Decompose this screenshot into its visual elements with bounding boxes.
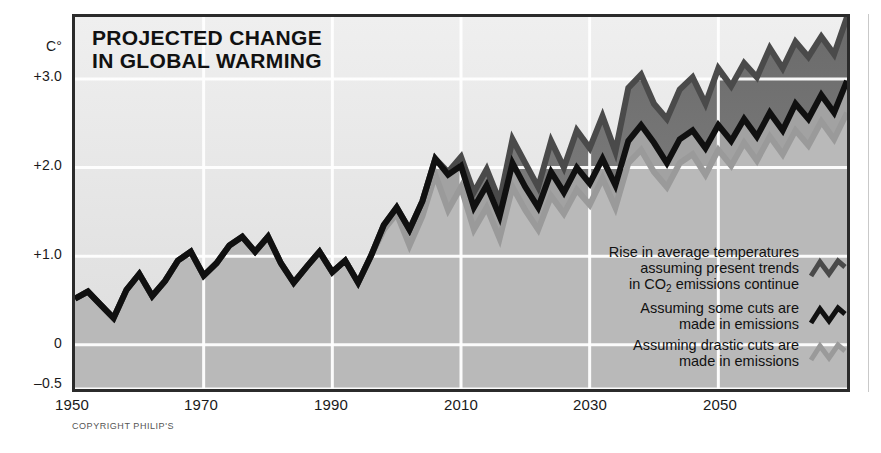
legend-label-drastic-cuts: Assuming drastic cuts are made in emissi… [633,337,808,369]
y-tick-2: +2.0 [10,157,62,173]
zigzag-icon [808,256,848,282]
legend-item-present-trends: Rise in average temperatures assuming pr… [400,244,848,295]
y-tick-neg: –0.5 [10,375,62,391]
x-tick-1990: 1990 [296,396,366,413]
chart-legend: Rise in average temperatures assuming pr… [400,244,848,375]
legend-item-some-cuts: Assuming some cuts are made in emissions [400,300,848,332]
legend-label-present-trends: Rise in average temperatures assuming pr… [609,244,808,295]
chart-figure: C° +3.0 +2.0 +1.0 0 –0.5 1950 1970 1990 … [0,0,881,453]
x-tick-1970: 1970 [166,396,236,413]
y-tick-0: 0 [10,335,62,351]
x-tick-1950: 1950 [37,396,107,413]
zigzag-icon [808,303,848,329]
y-tick-3: +3.0 [10,68,62,84]
y-axis-unit: C° [10,38,62,54]
y-tick-1: +1.0 [10,246,62,262]
x-tick-2050: 2050 [685,396,755,413]
x-tick-2030: 2030 [555,396,625,413]
x-tick-2010: 2010 [426,396,496,413]
legend-label-some-cuts: Assuming some cuts are made in emissions [640,300,808,332]
legend-item-drastic-cuts: Assuming drastic cuts are made in emissi… [400,337,848,369]
zigzag-icon [808,340,848,366]
chart-title: PROJECTED CHANGE IN GLOBAL WARMING [92,27,322,72]
side-panel [868,14,881,392]
copyright-notice: COPYRIGHT PHILIP'S [72,421,174,431]
